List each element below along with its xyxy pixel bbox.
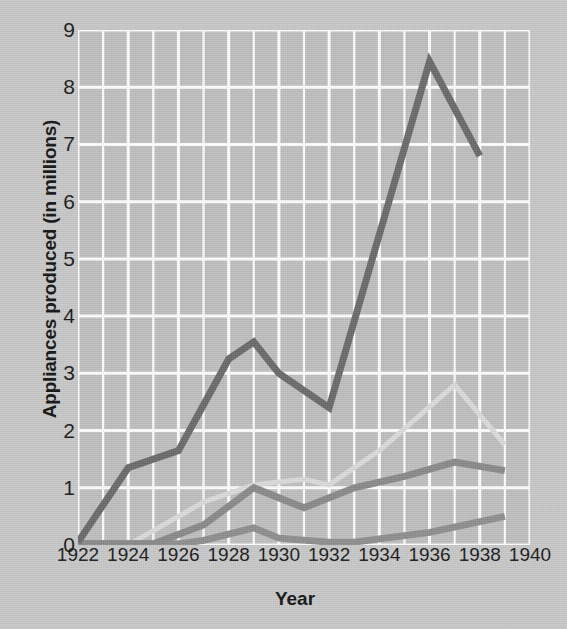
y-tick-label-3: 3 — [49, 362, 75, 383]
x-tick-label-1934: 1934 — [358, 545, 400, 564]
chart-screenshot: Appliances produced (in millions) 987654… — [0, 0, 567, 629]
x-axis-title: Year — [60, 588, 530, 610]
y-tick-label-1: 1 — [49, 477, 75, 498]
y-tick-label-2: 2 — [49, 420, 75, 441]
x-tick-label-1922: 1922 — [57, 545, 99, 564]
y-tick-label-6: 6 — [49, 191, 75, 212]
y-tick-label-4: 4 — [49, 305, 75, 326]
x-tick-label-1928: 1928 — [208, 545, 250, 564]
x-axis-tick-labels: 1922192419261928193019321934193619381940 — [0, 545, 567, 575]
x-tick-label-1936: 1936 — [408, 545, 450, 564]
x-tick-label-1924: 1924 — [107, 545, 149, 564]
x-tick-label-1932: 1932 — [308, 545, 350, 564]
y-axis-tick-labels: 9876543210 — [30, 0, 75, 629]
x-tick-label-1940: 1940 — [509, 545, 551, 564]
y-tick-label-9: 9 — [49, 19, 75, 40]
x-tick-label-1938: 1938 — [459, 545, 501, 564]
x-tick-label-1930: 1930 — [258, 545, 300, 564]
y-tick-label-8: 8 — [49, 76, 75, 97]
plot-area — [78, 30, 530, 545]
chart-canvas — [78, 30, 530, 545]
y-tick-label-7: 7 — [49, 133, 75, 154]
y-tick-label-5: 5 — [49, 248, 75, 269]
x-tick-label-1926: 1926 — [157, 545, 199, 564]
